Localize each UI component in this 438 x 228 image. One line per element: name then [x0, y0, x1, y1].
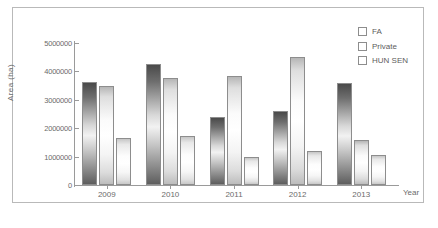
y-tick-label: 3000000: [10, 95, 72, 104]
bar[interactable]: [146, 64, 161, 185]
legend-label-private: Private: [372, 42, 397, 51]
x-tick-label: 2012: [274, 190, 322, 199]
bar[interactable]: [337, 83, 352, 185]
bar-group: [273, 57, 322, 185]
y-tick: [74, 185, 79, 186]
legend-item: Private: [358, 42, 408, 51]
legend-swatch-hun-sen: [358, 56, 367, 65]
bar[interactable]: [210, 117, 225, 185]
y-tick-label: 0: [10, 181, 72, 190]
legend-label-hun-sen: HUN SEN: [372, 56, 408, 65]
x-tick: [361, 185, 362, 189]
bar[interactable]: [227, 76, 242, 185]
x-axis-line: [74, 185, 399, 186]
legend-label-fa: FA: [372, 27, 382, 36]
plot-area: [75, 43, 393, 185]
x-axis-label: Year: [403, 188, 419, 197]
legend-item: HUN SEN: [358, 56, 408, 65]
legend: FA Private HUN SEN: [358, 27, 408, 65]
legend-swatch-private: [358, 42, 367, 51]
y-tick-label: 2000000: [10, 124, 72, 133]
legend-item: FA: [358, 27, 408, 36]
bar[interactable]: [180, 136, 195, 185]
bar[interactable]: [99, 86, 114, 185]
bar[interactable]: [371, 155, 386, 185]
bar[interactable]: [116, 138, 131, 185]
y-tick-label: 5000000: [10, 39, 72, 48]
x-tick-label: 2010: [146, 190, 194, 199]
bar-group: [337, 83, 386, 185]
y-tick-label: 4000000: [10, 67, 72, 76]
bar-group: [82, 82, 131, 185]
x-tick-label: 2009: [83, 190, 131, 199]
x-tick: [234, 185, 235, 189]
bar[interactable]: [290, 57, 305, 185]
bar[interactable]: [354, 140, 369, 185]
bar[interactable]: [273, 111, 288, 185]
bar-group: [210, 76, 259, 185]
x-tick-label: 2013: [337, 190, 385, 199]
x-tick: [107, 185, 108, 189]
y-tick-label: 1000000: [10, 152, 72, 161]
legend-swatch-fa: [358, 27, 367, 36]
figure: Area (ha) Year 0100000020000003000000400…: [0, 0, 438, 228]
bar[interactable]: [82, 82, 97, 185]
x-tick: [170, 185, 171, 189]
x-tick: [298, 185, 299, 189]
bar[interactable]: [307, 151, 322, 185]
bar[interactable]: [163, 78, 178, 185]
x-tick-label: 2011: [210, 190, 258, 199]
bar-group: [146, 64, 195, 185]
bar[interactable]: [244, 157, 259, 185]
